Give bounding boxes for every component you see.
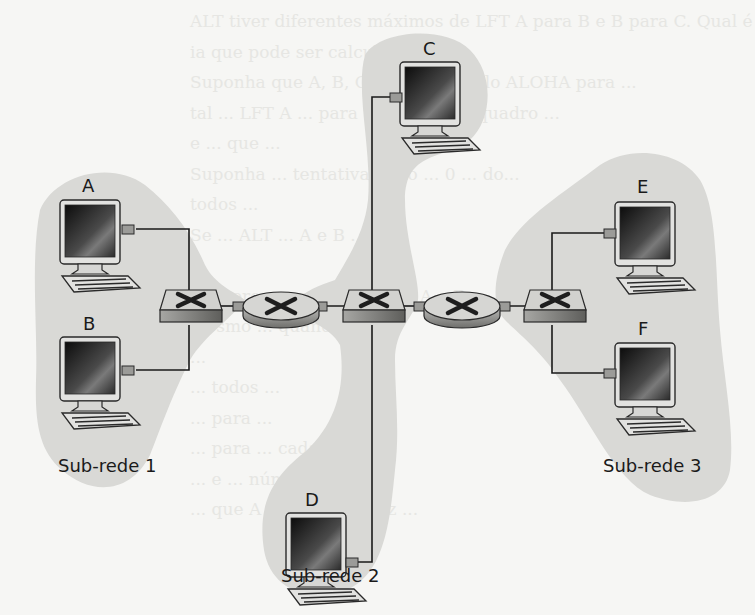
network-diagram: A B C D E F Sub-rede 1 Sub-rede 2 Sub-re… — [0, 0, 755, 615]
switch-3 — [524, 290, 586, 322]
host-e-label: E — [637, 176, 648, 197]
router-1 — [243, 292, 319, 328]
subnet-3-label: Sub-rede 3 — [603, 455, 702, 476]
switch-2 — [343, 290, 405, 322]
host-b-label: B — [83, 313, 95, 334]
host-a-label: A — [82, 175, 95, 196]
host-c-label: C — [423, 38, 436, 59]
subnet-1-label: Sub-rede 1 — [58, 455, 157, 476]
router-2 — [424, 292, 500, 328]
switch-1 — [160, 290, 222, 322]
subnet-2-label: Sub-rede 2 — [281, 565, 380, 586]
subnet-3-region — [496, 153, 732, 502]
host-d-label: D — [305, 489, 319, 510]
host-f-label: F — [638, 318, 648, 339]
